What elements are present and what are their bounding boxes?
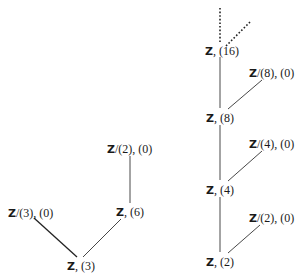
edge-z3-to-z6 xyxy=(83,219,121,257)
ring-symbol: Z xyxy=(206,184,214,197)
edge-z3-to-z3q xyxy=(34,218,77,257)
ring-symbol: Z xyxy=(249,212,257,225)
node-z-mod-2-zero-left: Z/(2), (0) xyxy=(107,142,152,157)
quotient: /(3) xyxy=(16,206,33,220)
ideal: , (3) xyxy=(75,259,95,273)
edge-z2-to-z2q xyxy=(228,225,260,253)
node-z-4: Z, (4) xyxy=(206,183,234,198)
ring-symbol: Z xyxy=(107,143,115,156)
edge-z4-to-z4q xyxy=(228,151,262,181)
ideal: , (0) xyxy=(274,211,294,225)
quotient: /(8) xyxy=(257,66,274,80)
node-z-3: Z, (3) xyxy=(67,259,95,274)
ideal: , (2) xyxy=(214,255,234,269)
ring-symbol: Z xyxy=(116,206,124,219)
ideal: , (0) xyxy=(274,66,294,80)
ideal: , (0) xyxy=(132,142,152,156)
ideal: , (4) xyxy=(214,183,234,197)
edge-z8-to-z8q xyxy=(228,80,262,109)
ring-symbol: Z xyxy=(8,207,16,220)
ideal: , (6) xyxy=(124,205,144,219)
node-z-2: Z, (2) xyxy=(206,255,234,270)
quotient: /(2) xyxy=(115,142,132,156)
ideal: , (16) xyxy=(213,44,239,58)
node-z-16: Z, (16) xyxy=(205,44,239,59)
node-z-mod-3-zero: Z/(3), (0) xyxy=(8,206,53,221)
ideal: , (0) xyxy=(274,137,294,151)
edge-z16-continuation-diag xyxy=(226,22,250,46)
node-z-6: Z, (6) xyxy=(116,205,144,220)
ring-symbol: Z xyxy=(249,138,257,151)
node-z-mod-2-zero-right: Z/(2), (0) xyxy=(249,211,294,226)
ring-symbol: Z xyxy=(206,256,214,269)
node-z-mod-4-zero: Z/(4), (0) xyxy=(249,137,294,152)
ideal: , (0) xyxy=(33,206,53,220)
ring-symbol: Z xyxy=(249,67,257,80)
ring-symbol: Z xyxy=(206,112,214,125)
ring-symbol: Z xyxy=(205,45,213,58)
ideal: , (8) xyxy=(214,111,234,125)
quotient: /(4) xyxy=(257,137,274,151)
quotient: /(2) xyxy=(257,211,274,225)
node-z-mod-8-zero: Z/(8), (0) xyxy=(249,66,294,81)
ring-symbol: Z xyxy=(67,260,75,273)
node-z-8: Z, (8) xyxy=(206,111,234,126)
